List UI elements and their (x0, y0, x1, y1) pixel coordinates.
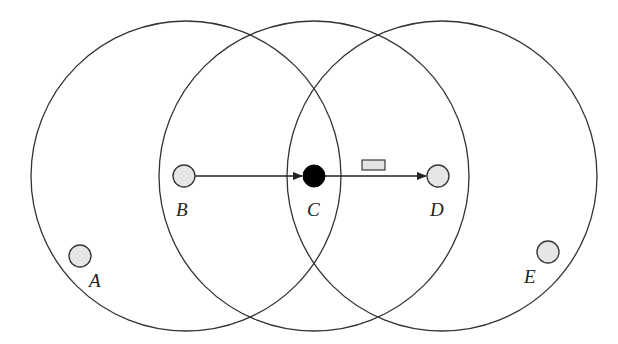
packet-icon (362, 160, 385, 170)
node-b-icon (173, 165, 195, 187)
node-c-icon (303, 165, 325, 187)
node-a-icon (69, 245, 91, 267)
node-e-icon (537, 241, 559, 263)
node-d-label: D (429, 199, 444, 220)
node-c-label: C (307, 199, 320, 220)
node-a[interactable]: A (69, 245, 101, 291)
node-e-label: E (523, 266, 536, 287)
node-b[interactable]: B (173, 165, 195, 220)
node-e[interactable]: E (523, 241, 559, 287)
node-d-icon (427, 165, 449, 187)
node-c[interactable]: C (303, 165, 325, 220)
node-a-label: A (87, 270, 101, 291)
node-b-label: B (176, 199, 188, 220)
node-d[interactable]: D (427, 165, 449, 220)
network-diagram: A B C D E (0, 0, 618, 344)
